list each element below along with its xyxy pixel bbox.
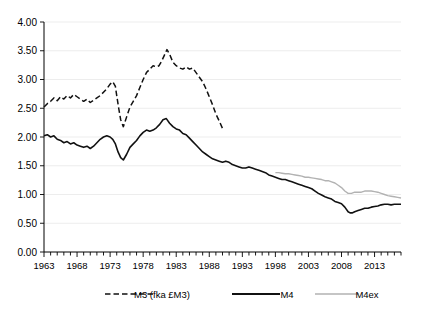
y-tick-label: 2.50 xyxy=(18,103,38,114)
x-tick-label: 1973 xyxy=(100,260,121,271)
y-tick-label: 3.50 xyxy=(18,45,38,56)
x-tick-label: 2003 xyxy=(298,260,319,271)
x-tick-label: 1993 xyxy=(232,260,253,271)
x-tick-label: 1988 xyxy=(199,260,220,271)
x-tick-label: 2013 xyxy=(364,260,385,271)
x-axis xyxy=(44,252,401,257)
y-tick-label: 1.50 xyxy=(18,160,38,171)
chart-container: 0.000.501.001.502.002.503.003.504.00 196… xyxy=(0,0,433,316)
x-tick-label: 2008 xyxy=(331,260,352,271)
legend-label-m4: M4 xyxy=(280,289,293,300)
x-tick-label: 1998 xyxy=(265,260,286,271)
x-tick-label: 1963 xyxy=(33,260,54,271)
y-tick-label: 2.00 xyxy=(18,132,38,143)
x-tick-label: 1983 xyxy=(166,260,187,271)
y-tick-label: 0.50 xyxy=(18,218,38,229)
line-chart: 0.000.501.001.502.002.503.003.504.00 196… xyxy=(0,0,433,316)
y-axis xyxy=(40,22,44,252)
y-tick-label: 0.00 xyxy=(18,247,38,258)
y-tick-labels: 0.000.501.001.502.002.503.003.504.00 xyxy=(18,17,38,258)
y-tick-label: 4.00 xyxy=(18,17,38,28)
x-tick-label: 1968 xyxy=(66,260,87,271)
x-tick-labels: 1963196819731978198319881993199820032008… xyxy=(33,260,385,271)
x-tick-label: 1978 xyxy=(133,260,154,271)
legend-label-m4ex: M4ex xyxy=(355,289,378,300)
y-tick-label: 3.00 xyxy=(18,74,38,85)
legend-label-m3: M3 (fka £M3) xyxy=(134,289,190,300)
y-tick-label: 1.00 xyxy=(18,189,38,200)
chart-legend: M3 (fka £M3)M4M4ex xyxy=(105,289,379,300)
series-line-m3 xyxy=(44,50,223,129)
data-series xyxy=(44,50,401,213)
